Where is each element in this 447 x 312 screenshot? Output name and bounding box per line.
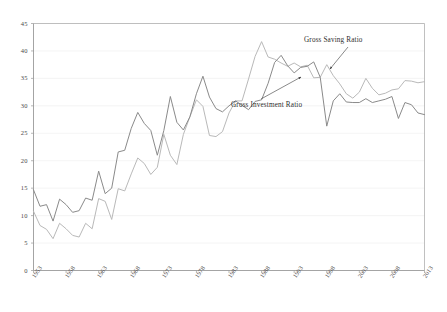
y-tick-label: 10 <box>6 212 28 219</box>
y-tick-label: 40 <box>6 47 28 54</box>
y-tick-label: 35 <box>6 74 28 81</box>
y-tick-label: 15 <box>6 184 28 191</box>
annotation-label: Gross Saving Ratio <box>304 36 363 44</box>
chart-plot-svg <box>0 0 447 312</box>
y-tick-label: 45 <box>6 20 28 27</box>
y-tick-label: 30 <box>6 102 28 109</box>
y-tick-label: 20 <box>6 157 28 164</box>
chart-container: 051015202530354045 195319581963196819731… <box>0 0 447 312</box>
y-tick-label: 5 <box>6 239 28 246</box>
annotation-arrow <box>330 47 348 69</box>
annotation-label: Gross Investment Ratio <box>231 101 302 109</box>
series-line-gross-saving-ratio <box>34 42 425 239</box>
y-tick-label: 0 <box>6 267 28 274</box>
y-tick-label: 25 <box>6 129 28 136</box>
series-line-gross-investment-ratio <box>34 55 425 221</box>
annotation-arrow <box>261 77 301 99</box>
